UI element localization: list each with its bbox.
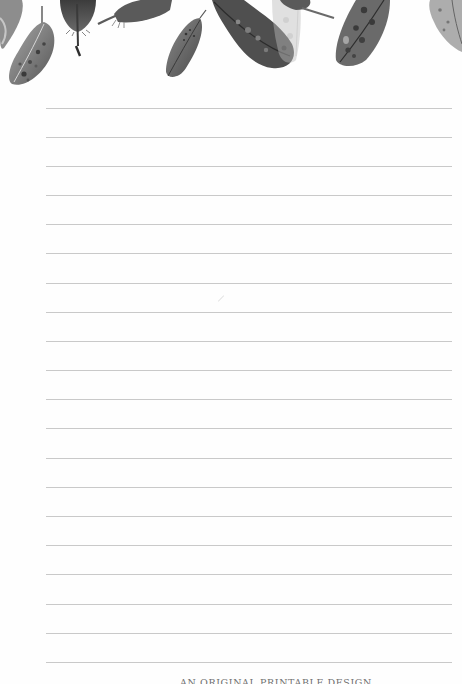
ruled-line [46, 195, 452, 196]
ruled-line [46, 253, 452, 254]
ruled-line [46, 137, 452, 138]
ruled-line [46, 224, 452, 225]
ruled-line [46, 166, 452, 167]
notepad-page: AN ORIGINAL PRINTABLE DESIGN [0, 0, 462, 684]
ruled-line [46, 399, 452, 400]
ruled-line [46, 633, 452, 634]
ruled-line [46, 604, 452, 605]
ruled-line [46, 545, 452, 546]
footer-credit-text: AN ORIGINAL PRINTABLE DESIGN [0, 677, 462, 684]
ruled-line [46, 108, 452, 109]
ruled-line [46, 341, 452, 342]
ruled-lines [0, 0, 462, 684]
ruled-line [46, 428, 452, 429]
ruled-line [46, 662, 452, 663]
ruled-line [46, 574, 452, 575]
ruled-line [46, 516, 452, 517]
ruled-line [46, 487, 452, 488]
ruled-line [46, 370, 452, 371]
ruled-line [46, 283, 452, 284]
ruled-line [46, 312, 452, 313]
ruled-line [46, 458, 452, 459]
